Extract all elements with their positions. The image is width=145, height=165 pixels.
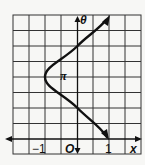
x-axis-left-arrow-icon [5,136,12,142]
pi-tick-label: π [60,69,67,83]
theta-axis-label: θ [80,13,87,27]
cosine-curve [45,20,107,137]
chart: θ π −1 O 1 x [0,0,145,165]
x-axis-label: x [129,142,138,156]
theta-axis-down-arrow-icon [75,148,81,154]
minus-one-tick-label: −1 [32,142,46,156]
origin-label: O [65,142,75,156]
one-tick-label: 1 [105,142,112,156]
